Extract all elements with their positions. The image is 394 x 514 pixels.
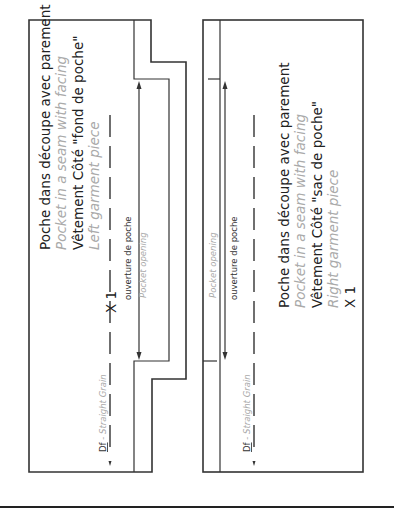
left-opening-fr: ouverture de poche xyxy=(123,216,133,300)
right-opening-fr: ouverture de poche xyxy=(229,216,239,300)
left-opening-en: Pocket opening xyxy=(138,232,148,298)
pattern-sheet: Poche dans découpe avec parement Pocket … xyxy=(0,0,394,514)
left-grain-label: Df - Straight Grain xyxy=(98,374,108,452)
left-title-en: Pocket in a seam with facing xyxy=(53,56,69,250)
right-grain-arrow-icon xyxy=(253,461,256,466)
left-grain-en: - Straight Grain xyxy=(98,374,108,442)
left-quantity: X 1 xyxy=(103,291,119,313)
right-opening-en: Pocket opening xyxy=(208,232,218,298)
left-title-fr: Poche dans découpe avec parement xyxy=(37,5,53,251)
right-title-en: Pocket in a seam with facing xyxy=(292,114,308,308)
left-opening-arrow-up-icon xyxy=(137,81,142,89)
left-opening-arrow-down-icon xyxy=(137,352,142,360)
right-grain-label: Df - Straight Grain xyxy=(242,374,252,452)
left-garment-fr: Vêtement Côté "fond de poche" xyxy=(70,36,86,250)
right-pattern-piece: Pocket opening ouverture de poche Poche … xyxy=(203,20,363,472)
right-garment-fr: Vêtement Côté "sac de poche" xyxy=(309,101,325,308)
right-grain-en: - Straight Grain xyxy=(242,374,252,442)
right-quantity: X 1 xyxy=(342,286,358,308)
left-garment-en: Left garment piece xyxy=(86,121,102,250)
right-opening-arrow-down-icon xyxy=(223,352,228,360)
left-pattern-piece: Poche dans découpe avec parement Pocket … xyxy=(29,5,186,473)
right-title-fr: Poche dans découpe avec parement xyxy=(276,63,292,309)
right-opening-arrow-up-icon xyxy=(223,81,228,89)
right-garment-en: Right garment piece xyxy=(325,170,341,308)
left-grain-arrow-icon xyxy=(109,461,112,466)
